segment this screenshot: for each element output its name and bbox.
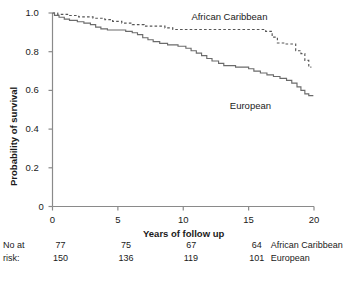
risk-table-header-line2: risk:	[3, 254, 20, 263]
axes	[49, 13, 315, 211]
kaplan-meier-survival-figure: Probability of survival Years of follow …	[0, 0, 349, 283]
y-tick-label: 0.4	[26, 124, 39, 134]
y-tick-label: 0.2	[26, 163, 39, 173]
risk-count: 67	[186, 241, 196, 250]
series-label-african-caribbean: African Caribbean	[191, 12, 267, 22]
x-tick-label: 10	[178, 215, 189, 225]
risk-group-label: African Caribbean	[271, 241, 343, 250]
x-tick-label: 5	[115, 215, 120, 225]
y-tick-label: 1.0	[26, 8, 39, 18]
y-tick-label: 0.6	[26, 85, 39, 95]
risk-count: 150	[53, 254, 68, 263]
risk-count: 75	[121, 241, 131, 250]
risk-count: 77	[56, 241, 66, 250]
risk-count: 119	[184, 254, 198, 263]
risk-table-header-line1: No at	[3, 241, 25, 250]
x-tick-label: 0	[50, 215, 55, 225]
survival-curve-african-caribbean	[53, 13, 312, 67]
y-tick-label: 0.8	[26, 47, 39, 57]
risk-count: 101	[249, 254, 264, 263]
y-tick-label: 0	[39, 202, 44, 212]
survival-curves	[53, 13, 314, 96]
x-tick-label: 15	[243, 215, 254, 225]
y-axis-title: Probability of survival	[9, 87, 19, 186]
x-tick-label: 20	[309, 215, 320, 225]
survival-curve-european	[53, 13, 314, 96]
risk-group-label: European	[271, 254, 310, 263]
risk-count: 136	[118, 254, 133, 263]
x-axis-title: Years of follow up	[143, 229, 224, 239]
x-axis-ticks	[53, 207, 315, 211]
risk-count: 64	[252, 241, 262, 250]
series-label-european: European	[230, 101, 271, 111]
